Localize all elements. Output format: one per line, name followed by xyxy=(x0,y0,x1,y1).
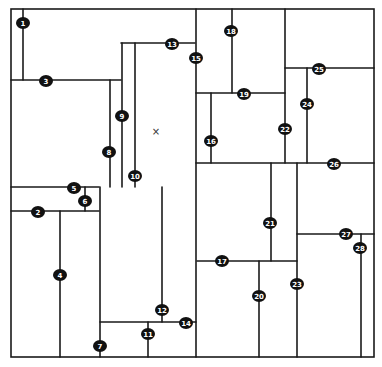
segment-label-7: 7 xyxy=(93,340,107,352)
segment-label-17: 17 xyxy=(215,255,229,267)
segment-label-16: 16 xyxy=(204,135,218,147)
segment-label-2: 2 xyxy=(31,206,45,218)
label-number: 11 xyxy=(143,331,153,339)
segment-label-5: 5 xyxy=(67,182,81,194)
label-number: 12 xyxy=(157,307,167,315)
segment-label-1: 1 xyxy=(16,17,30,29)
label-number: 4 xyxy=(58,272,63,280)
label-number: 8 xyxy=(107,149,112,157)
segment-label-26: 26 xyxy=(327,158,341,170)
label-number: 2 xyxy=(36,209,41,217)
segment-label-6: 6 xyxy=(78,195,92,207)
label-number: 17 xyxy=(217,258,227,266)
label-number: 26 xyxy=(329,161,339,169)
segment-label-9: 9 xyxy=(115,110,129,122)
segment-label-12: 12 xyxy=(155,304,169,316)
label-number: 22 xyxy=(280,126,290,134)
label-number: 19 xyxy=(239,91,249,99)
segment-label-24: 24 xyxy=(300,98,314,110)
label-number: 15 xyxy=(191,55,201,63)
badges-layer: 1234567891011121314151617181920212223242… xyxy=(16,17,367,352)
label-number: 16 xyxy=(206,138,216,146)
label-number: 23 xyxy=(292,281,302,289)
label-number: 13 xyxy=(167,41,177,49)
segment-label-28: 28 xyxy=(353,242,367,254)
segment-label-27: 27 xyxy=(339,228,353,240)
label-number: 1 xyxy=(21,20,26,28)
segment-label-18: 18 xyxy=(224,25,238,37)
label-number: 28 xyxy=(355,245,365,253)
label-number: 7 xyxy=(98,343,103,351)
label-number: 9 xyxy=(120,113,125,121)
label-number: 10 xyxy=(130,173,140,181)
label-number: 6 xyxy=(83,198,88,206)
label-number: 25 xyxy=(314,66,324,74)
segment-label-11: 11 xyxy=(141,328,155,340)
segment-label-4: 4 xyxy=(53,269,67,281)
segment-label-23: 23 xyxy=(290,278,304,290)
label-number: 14 xyxy=(181,320,191,328)
segment-label-21: 21 xyxy=(263,217,277,229)
segment-label-3: 3 xyxy=(39,75,53,87)
center-marker: × xyxy=(152,126,160,137)
label-number: 21 xyxy=(265,220,275,228)
label-number: 24 xyxy=(302,101,312,109)
subdivision-diagram: 1234567891011121314151617181920212223242… xyxy=(0,0,382,367)
label-number: 5 xyxy=(72,185,77,193)
segment-label-20: 20 xyxy=(252,290,266,302)
label-number: 3 xyxy=(44,78,49,86)
segment-label-8: 8 xyxy=(102,146,116,158)
segment-label-14: 14 xyxy=(179,317,193,329)
label-number: 20 xyxy=(254,293,264,301)
label-number: 18 xyxy=(226,28,236,36)
segment-label-19: 19 xyxy=(237,88,251,100)
segment-label-10: 10 xyxy=(128,170,142,182)
label-number: 27 xyxy=(341,231,351,239)
segment-label-25: 25 xyxy=(312,63,326,75)
segment-label-13: 13 xyxy=(165,38,179,50)
segment-label-15: 15 xyxy=(189,52,203,64)
segment-label-22: 22 xyxy=(278,123,292,135)
